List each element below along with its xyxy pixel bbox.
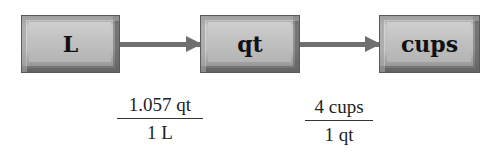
arrow-right-icon [120, 42, 200, 47]
unit-box-quarts: qt [200, 15, 300, 73]
unit-box-liters: L [21, 15, 120, 73]
fraction-numerator: 4 cups [305, 96, 373, 120]
fraction-denominator: 1 qt [305, 121, 373, 146]
conversion-factor-l-to-qt: 1.057 qt 1 L [117, 94, 203, 144]
fraction-numerator: 1.057 qt [117, 94, 203, 118]
conversion-factor-qt-to-cups: 4 cups 1 qt [305, 96, 373, 146]
unit-box-cups: cups [379, 15, 480, 73]
arrow-right-icon [300, 42, 379, 47]
unit-label: L [63, 31, 78, 57]
unit-label: cups [401, 31, 458, 57]
fraction-denominator: 1 L [117, 119, 203, 144]
unit-label: qt [237, 31, 263, 57]
